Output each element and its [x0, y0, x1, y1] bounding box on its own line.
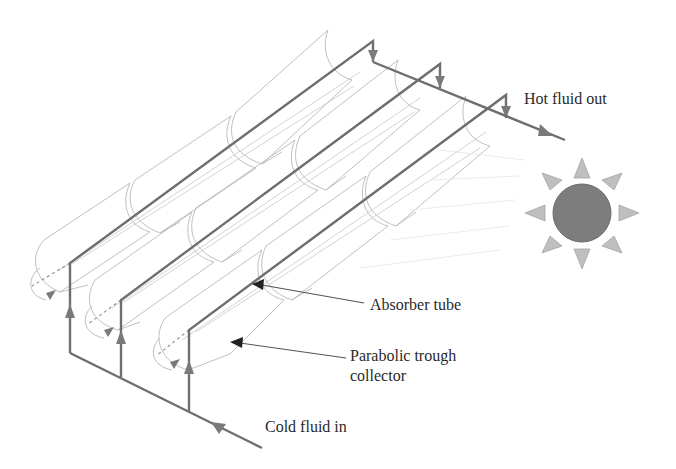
trough-collectors — [35, 30, 525, 370]
hot-fluid-out-label: Hot fluid out — [524, 90, 607, 107]
hot-flow-arrow-icon — [538, 124, 553, 136]
trough-module — [35, 183, 150, 292]
rotation-arrow-icon — [170, 359, 180, 369]
up-flow-arrow-icon — [116, 330, 126, 344]
collector-label-line2: collector — [350, 367, 407, 384]
sun-ray-hatching — [360, 150, 525, 268]
absorber-tube-label: Absorber tube — [370, 296, 461, 313]
leader-lines — [230, 279, 364, 358]
tracking-rotation-icon — [156, 330, 189, 356]
down-flow-arrow-icon — [368, 50, 378, 62]
rotation-arrow-icon — [46, 290, 56, 300]
sun-ray — [525, 205, 545, 221]
rotation-arrow-icon — [104, 327, 114, 337]
sun-core — [553, 184, 611, 242]
parabolic-trough-diagram: Hot fluid out Absorber tube Parabolic tr… — [0, 0, 676, 469]
absorber-tube-2 — [121, 64, 440, 377]
sun-ray — [619, 205, 639, 221]
cold-inlet-header — [70, 353, 262, 448]
trough-edge — [112, 98, 420, 308]
down-flow-arrow-icon — [435, 76, 445, 88]
up-flow-arrow-icon — [184, 360, 194, 374]
sun-ray — [574, 249, 590, 269]
sun-icon — [525, 158, 639, 269]
tracking-rotation-icon — [32, 263, 70, 286]
sun-ray — [542, 173, 562, 190]
collector-leader-line — [240, 343, 346, 358]
up-flow-arrow-icon — [65, 304, 75, 318]
trough-edge — [60, 72, 360, 270]
trough-module — [262, 176, 388, 300]
sun-ray — [602, 173, 622, 190]
cold-fluid-in-label: Cold fluid in — [265, 418, 347, 435]
sun-ray — [542, 236, 562, 253]
absorber-leader-line — [262, 285, 364, 303]
trough-row-3 — [159, 96, 490, 370]
sun-ray — [602, 236, 622, 253]
trough-module — [159, 250, 284, 370]
collector-label-line1: Parabolic trough — [350, 347, 456, 365]
sun-ray — [574, 158, 590, 178]
trough-module — [366, 96, 490, 226]
collector-leader-arrow-icon — [230, 337, 243, 348]
tracking-rotation-indicators — [31, 263, 189, 370]
